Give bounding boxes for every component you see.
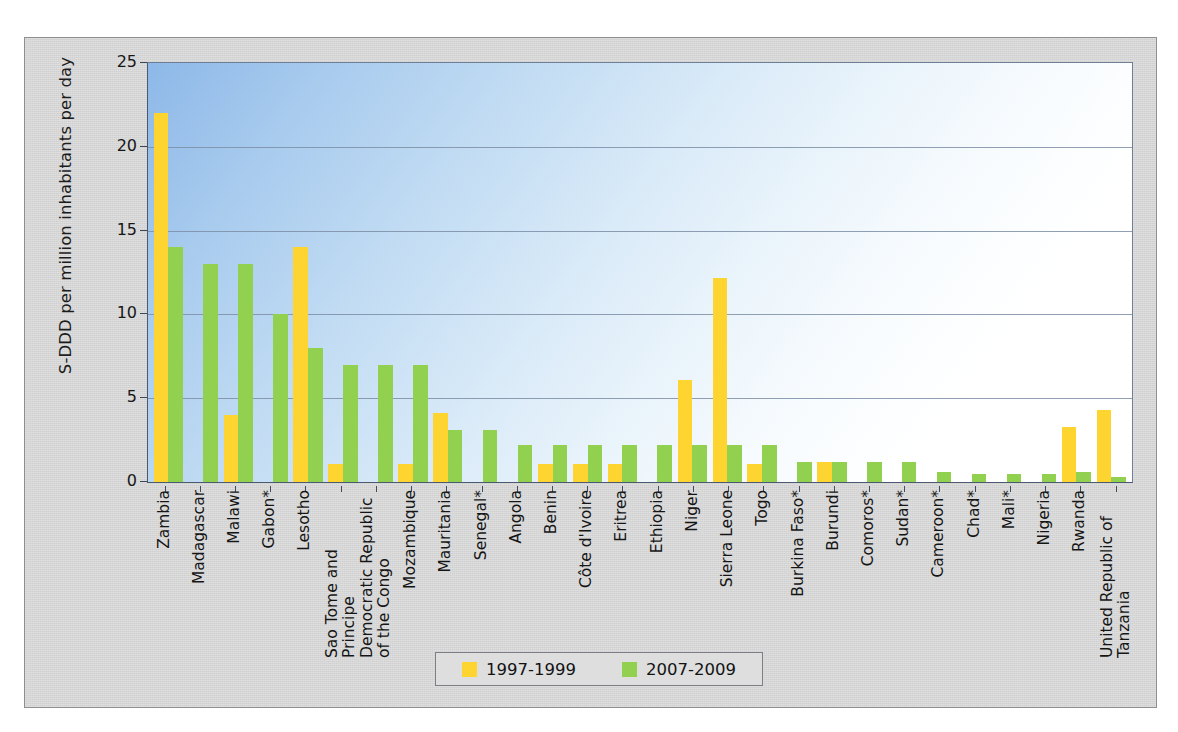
x-axis-label-cell: Madagascar <box>182 486 217 656</box>
bar-period1 <box>747 464 762 482</box>
bar-group <box>1059 63 1094 482</box>
x-axis-label: Mauritania <box>438 490 455 573</box>
x-axis-label: Togo <box>755 490 772 526</box>
x-axis-label: Angola <box>508 490 525 544</box>
bar-group <box>221 63 256 482</box>
bar-group <box>780 63 815 482</box>
bar-group <box>710 63 745 482</box>
bar-period2 <box>797 462 812 482</box>
x-axis-label-cell: Burundi <box>816 486 851 656</box>
x-axis-label-cell: United Republic of Tanzania <box>1098 486 1133 656</box>
x-axis-label: Burundi <box>825 490 842 551</box>
bar-group <box>954 63 989 482</box>
bar-period1 <box>678 380 693 482</box>
bar-period2 <box>902 462 917 482</box>
x-axis-label: United Republic of Tanzania <box>1098 490 1133 658</box>
bar-period2 <box>378 365 393 482</box>
bar-period1 <box>713 278 728 482</box>
bar-period1 <box>1097 410 1112 482</box>
bar-period2 <box>273 314 288 482</box>
bar-period2 <box>657 445 672 482</box>
y-tick-label: 20 <box>103 136 137 155</box>
x-axis-label: Mali* <box>1001 490 1018 529</box>
x-axis-label-cell: Angola <box>499 486 534 656</box>
y-tick-mark <box>140 481 147 482</box>
legend-swatch <box>622 662 637 677</box>
bar-group <box>395 63 430 482</box>
bar-period1 <box>573 464 588 482</box>
x-axis-label: Malawi <box>226 490 243 544</box>
x-axis-label: Madagascar <box>191 490 208 584</box>
x-axis-label: Senegal* <box>473 490 490 560</box>
x-axis-label: Zambia <box>156 490 173 549</box>
legend-item: 2007-2009 <box>622 660 736 679</box>
x-axis-label-cell: Togo <box>746 486 781 656</box>
bar-period1 <box>608 464 623 482</box>
legend-label: 2007-2009 <box>646 660 736 679</box>
x-axis-label-cell: Nigeria <box>1027 486 1062 656</box>
bar-period1 <box>293 247 308 482</box>
bar-period2 <box>483 430 498 482</box>
bar-group <box>849 63 884 482</box>
bar-period1 <box>154 113 169 482</box>
x-axis-label-cell: Mozambique <box>394 486 429 656</box>
bar-group <box>605 63 640 482</box>
x-axis-label-cell: Mauritania <box>429 486 464 656</box>
x-axis-label: Eritrea <box>614 490 631 542</box>
bar-group <box>675 63 710 482</box>
y-tick-mark <box>140 146 147 147</box>
legend-label: 1997-1999 <box>486 660 576 679</box>
x-axis-label-cell: Malawi <box>217 486 252 656</box>
bar-period2 <box>972 474 987 482</box>
x-axis-label-cell: Gabon* <box>253 486 288 656</box>
bar-period2 <box>622 445 637 482</box>
x-axis-label: Cameroon* <box>931 490 948 578</box>
y-axis-title: S-DDD per million inhabitants per day <box>56 16 75 416</box>
bar-period2 <box>727 445 742 482</box>
scanned-chart-page: S-DDD per million inhabitants per day 05… <box>0 0 1178 732</box>
bar-group <box>361 63 396 482</box>
x-axis-labels: ZambiaMadagascarMalawiGabon*LesothoSao T… <box>147 486 1133 656</box>
y-tick-mark <box>140 397 147 398</box>
bar-group <box>465 63 500 482</box>
x-axis-label: Côte d'Ivoire <box>579 490 596 588</box>
bar-group <box>326 63 361 482</box>
x-axis-label: Sierra Leone <box>719 490 736 587</box>
bar-period2 <box>1007 474 1022 482</box>
bar-group <box>745 63 780 482</box>
x-axis-label-cell: Côte d'Ivoire <box>570 486 605 656</box>
y-tick-label: 15 <box>103 220 137 239</box>
y-tick-mark <box>140 230 147 231</box>
bar-period2 <box>692 445 707 482</box>
bar-group <box>535 63 570 482</box>
bar-period2 <box>762 445 777 482</box>
bar-period2 <box>867 462 882 482</box>
bar-period1 <box>433 413 448 482</box>
bar-period1 <box>398 464 413 482</box>
x-axis-label-cell: Chad* <box>957 486 992 656</box>
x-axis-label-cell: Sudan* <box>887 486 922 656</box>
x-axis-label: Democratic Republic of the Congo <box>359 490 394 658</box>
bar-group <box>151 63 186 482</box>
x-axis-label: Ethiopia <box>649 490 666 553</box>
plot-area <box>147 62 1133 483</box>
bar-period2 <box>343 365 358 482</box>
x-axis-label: Mozambique <box>402 490 419 589</box>
bar-group <box>884 63 919 482</box>
bar-period2 <box>308 348 323 482</box>
x-axis-label: Lesotho <box>297 490 314 551</box>
bar-group <box>186 63 221 482</box>
x-axis-label: Gabon* <box>262 490 279 548</box>
bar-group <box>430 63 465 482</box>
bar-period2 <box>1042 474 1057 482</box>
x-axis-label-cell: Burkina Faso* <box>781 486 816 656</box>
x-axis-label-cell: Sao Tome and Principe <box>323 486 358 656</box>
bar-period2 <box>168 247 183 482</box>
x-axis-label-cell: Ethiopia <box>640 486 675 656</box>
x-axis-label-cell: Eritrea <box>605 486 640 656</box>
bar-period2 <box>832 462 847 482</box>
bar-group <box>291 63 326 482</box>
bar-period2 <box>1076 472 1091 482</box>
bar-group <box>1024 63 1059 482</box>
bar-group <box>919 63 954 482</box>
